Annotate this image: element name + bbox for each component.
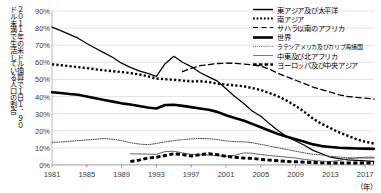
legend-item-sub-saharan-africa[interactable]: サハラ以南のアフリカ	[252, 23, 380, 32]
x-tick-1989: 1989	[113, 170, 130, 179]
x-tick-1981: 1981	[44, 170, 61, 179]
poverty-rate-line-chart: ２０１１年の米ドル換算で１日１．９０ ドル未満で生活している人口の割合 90% …	[0, 0, 381, 193]
x-axis-ticks	[52, 165, 365, 168]
legend-label-world: 世界	[277, 32, 291, 42]
legend-line-sample-solid-thin	[252, 5, 274, 14]
legend-line-sample-dashed	[252, 23, 274, 32]
legend-item-east-asia-pacific[interactable]: 東アジア及び太平洋	[252, 5, 380, 14]
legend-line-sample-dotted-fine	[252, 42, 274, 51]
legend-line-sample-dotted-bold	[252, 14, 274, 23]
legend-label-europe-central-asia: ヨーロッパ及び中央アジア	[277, 60, 358, 70]
chart-legend: 東アジア及び太平洋 南アジア サハラ以南のアフリカ 世界 ラテンアメリカ及びカリ…	[252, 5, 380, 69]
series-line-3	[52, 92, 374, 149]
series-line-1	[52, 64, 374, 143]
legend-line-sample-dashed-bold	[252, 60, 274, 69]
x-tick-1985: 1985	[78, 170, 95, 179]
x-tick-1993: 1993	[148, 170, 165, 179]
x-axis-unit-label: （年）	[356, 181, 377, 192]
legend-line-sample-solid-bold	[252, 33, 274, 42]
legend-label-latin-america-caribbean: ラテンアメリカ及びカリブ海諸国	[277, 42, 363, 51]
x-tick-2005: 2005	[252, 170, 269, 179]
legend-item-europe-central-asia[interactable]: ヨーロッパ及び中央アジア	[252, 60, 380, 69]
x-tick-1997: 1997	[183, 170, 200, 179]
legend-line-sample-solid-fine	[252, 51, 274, 60]
x-tick-2017: 2017	[357, 170, 374, 179]
legend-item-world[interactable]: 世界	[252, 33, 380, 42]
x-tick-2013: 2013	[322, 170, 339, 179]
x-tick-2001: 2001	[218, 170, 235, 179]
x-tick-2009: 2009	[287, 170, 304, 179]
